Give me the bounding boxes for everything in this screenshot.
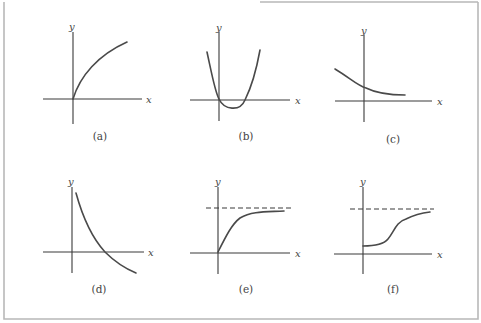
x-axis-label: x	[437, 249, 443, 260]
x-axis-label: x	[146, 94, 152, 105]
panel-caption: (e)	[239, 283, 253, 295]
panel-caption: (a)	[93, 130, 107, 142]
frame-border	[4, 2, 478, 319]
y-axis-label: y	[214, 176, 221, 187]
panel-caption: (b)	[239, 130, 254, 142]
panel-caption: (c)	[386, 133, 400, 145]
x-axis-label: x	[148, 247, 154, 258]
x-axis-label: x	[295, 95, 301, 106]
curve	[363, 212, 430, 246]
x-axis-label: x	[295, 248, 301, 259]
y-axis-label: y	[68, 21, 75, 32]
panel-f: x y (f)	[334, 176, 443, 295]
panel-e: x y (e)	[190, 176, 301, 295]
panel-caption: (d)	[92, 283, 107, 295]
figure-six-graphs: x y (a) x y (b) x y (c) x y (d) x y	[0, 0, 481, 323]
y-axis-label: y	[215, 22, 222, 33]
x-axis-label: x	[437, 96, 443, 107]
curve	[218, 211, 284, 252]
y-axis-label: y	[360, 25, 367, 36]
panel-c: x y (c)	[335, 25, 443, 145]
curve	[335, 69, 405, 95]
panel-d: x y (d)	[43, 176, 154, 295]
panel-caption: (f)	[387, 283, 399, 295]
y-axis-label: y	[359, 176, 366, 187]
panel-a: x y (a)	[43, 21, 152, 142]
curve	[73, 42, 127, 99]
panel-b: x y (b)	[190, 22, 301, 142]
curve	[207, 50, 260, 108]
y-axis-label: y	[67, 176, 74, 187]
curve	[76, 193, 136, 273]
